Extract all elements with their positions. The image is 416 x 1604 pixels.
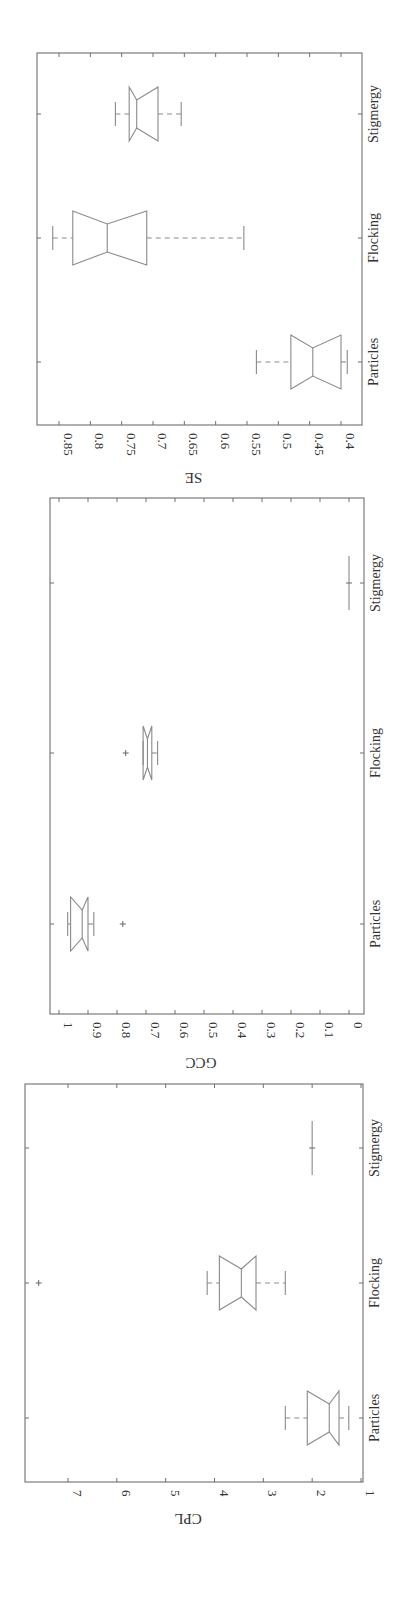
category-label: Stigmergy <box>368 554 383 612</box>
notched-box <box>129 87 158 141</box>
category-label: Flocking <box>366 213 381 263</box>
value-tick-label: 4 <box>217 1490 232 1497</box>
value-tick-label: 0.7 <box>155 433 170 450</box>
value-tick-label: 1 <box>363 1490 378 1497</box>
value-tick-label: 0.8 <box>119 1022 134 1038</box>
value-tick-label: 0.85 <box>61 433 76 456</box>
value-tick-label: 0.5 <box>280 433 295 449</box>
notched-box <box>219 1256 256 1310</box>
notched-box <box>71 897 88 951</box>
value-tick-label: 0.4 <box>235 1022 250 1039</box>
value-axis-label: SE <box>185 470 203 486</box>
value-tick-label: 0.3 <box>264 1022 279 1038</box>
box-particles <box>256 335 347 389</box>
value-tick-label: 0.6 <box>218 433 233 450</box>
value-tick-label: 0.2 <box>293 1022 308 1038</box>
value-tick-label: 1 <box>61 1022 76 1029</box>
value-tick-label: 0.6 <box>177 1022 192 1039</box>
value-tick-label: 0 <box>351 1022 366 1029</box>
category-label: Particles <box>366 338 381 386</box>
box-flocking <box>36 1256 286 1310</box>
value-tick-label: 0.4 <box>343 433 358 450</box>
box-flocking <box>53 211 244 265</box>
boxplot-figure: 0.850.80.750.70.650.60.550.50.450.4SEPar… <box>0 0 416 1604</box>
value-tick-label: 0.75 <box>124 433 139 456</box>
category-label: Particles <box>368 900 383 948</box>
plot-frame <box>50 498 364 1014</box>
value-tick-label: 0.65 <box>186 433 201 456</box>
cpl-boxplot-panel: 7654321CPLParticlesFlockingStigmergy <box>25 1084 382 1527</box>
value-tick-label: 0.45 <box>312 433 327 456</box>
value-tick-label: 0.7 <box>148 1022 163 1039</box>
category-label: Flocking <box>367 1258 382 1308</box>
box-stigmergy <box>346 556 352 610</box>
value-tick-label: 3 <box>265 1490 280 1497</box>
gcc-boxplot-panel: 10.90.80.70.60.50.40.30.20.10GCCParticle… <box>50 498 383 1071</box>
box-particles <box>285 1391 348 1445</box>
category-label: Stigmergy <box>366 85 381 143</box>
value-tick-label: 7 <box>70 1490 85 1497</box>
value-tick-label: 6 <box>119 1490 134 1497</box>
category-label: Stigmergy <box>367 1119 382 1177</box>
value-axis-label: GCC <box>186 1055 217 1071</box>
value-tick-label: 5 <box>168 1490 183 1497</box>
box-stigmergy <box>309 1121 315 1175</box>
notched-box <box>291 335 341 389</box>
box-stigmergy <box>115 87 181 141</box>
value-tick-label: 0.8 <box>92 433 107 449</box>
value-tick-label: 0.9 <box>90 1022 105 1038</box>
se-boxplot-panel: 0.850.80.750.70.650.60.550.50.450.4SEPar… <box>37 53 381 486</box>
value-tick-label: 0.55 <box>249 433 264 456</box>
box-flocking <box>123 726 158 780</box>
value-tick-label: 0.5 <box>206 1022 221 1038</box>
notched-box <box>307 1391 339 1445</box>
value-axis-label: CPL <box>174 1511 202 1527</box>
notched-box <box>73 211 147 265</box>
category-label: Flocking <box>368 728 383 778</box>
value-tick-label: 0.1 <box>322 1022 337 1038</box>
box-particles <box>68 897 126 951</box>
value-tick-label: 2 <box>314 1490 329 1497</box>
category-label: Particles <box>367 1394 382 1442</box>
